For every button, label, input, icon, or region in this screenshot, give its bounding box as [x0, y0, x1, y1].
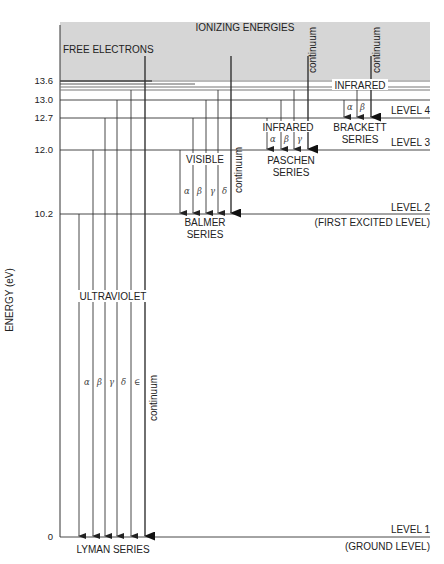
- balmer-series-label-1: BALMER: [184, 217, 225, 228]
- brackett-infrared-label: INFRARED: [334, 80, 385, 91]
- level-3-label: LEVEL 3: [391, 137, 431, 148]
- lyman-series-label: LYMAN SERIES: [76, 544, 149, 555]
- tick-12.0: 12.0: [35, 144, 54, 155]
- free-electrons-label: FREE ELECTRONS: [63, 44, 154, 55]
- energy-level-diagram: 13.6 13.0 12.7 12.0 10.2 0 ENERGY (eV) I…: [0, 0, 444, 564]
- brackett-continuum-label: continuum: [371, 27, 382, 73]
- brackett-beta: β: [359, 102, 365, 112]
- tick-10.2: 10.2: [35, 208, 54, 219]
- tick-13.0: 13.0: [35, 94, 54, 105]
- level-1-sublabel: (GROUND LEVEL): [345, 541, 430, 552]
- paschen-continuum-label: continuum: [307, 27, 318, 73]
- level-2-label: LEVEL 2: [391, 202, 431, 213]
- y-axis-label: ENERGY (eV): [4, 268, 15, 332]
- lyman-beta: β: [96, 377, 102, 387]
- ionizing-label: IONIZING ENERGIES: [196, 22, 295, 33]
- balmer-continuum-label: continuum: [233, 147, 244, 193]
- balmer-alpha: α: [184, 186, 190, 196]
- paschen-series-label-1: PASCHEN: [267, 155, 315, 166]
- visible-label: VISIBLE: [186, 154, 224, 165]
- brackett-series-label-1: BRACKETT: [333, 122, 386, 133]
- brackett-alpha: α: [347, 102, 353, 112]
- paschen-series-label-2: SERIES: [273, 167, 310, 178]
- paschen-alpha: α: [270, 134, 276, 144]
- balmer-delta: δ: [222, 186, 227, 196]
- level-lines: [60, 81, 430, 537]
- lyman-delta: δ: [121, 377, 126, 387]
- lyman-alpha: α: [84, 377, 90, 387]
- level-1-label: LEVEL 1: [391, 524, 431, 535]
- paschen-gamma: γ: [297, 134, 303, 144]
- lyman-gamma: γ: [109, 377, 115, 387]
- level-2-sublabel: (FIRST EXCITED LEVEL): [315, 217, 430, 228]
- tick-12.7: 12.7: [35, 112, 54, 123]
- paschen-beta: β: [283, 134, 289, 144]
- balmer-series-label-2: SERIES: [187, 229, 224, 240]
- lyman-continuum-label: continuum: [148, 375, 159, 421]
- balmer-beta: β: [196, 186, 202, 196]
- ultraviolet-label: ULTRAVIOLET: [80, 291, 147, 302]
- brackett-series-label-2: SERIES: [342, 134, 379, 145]
- tick-0: 0: [48, 531, 53, 542]
- paschen-infrared-label: INFRARED: [262, 122, 313, 133]
- balmer-gamma: γ: [210, 186, 216, 196]
- lyman-epsilon: ∈: [134, 377, 140, 387]
- tick-13.6: 13.6: [35, 75, 54, 86]
- level-4-label: LEVEL 4: [391, 105, 431, 116]
